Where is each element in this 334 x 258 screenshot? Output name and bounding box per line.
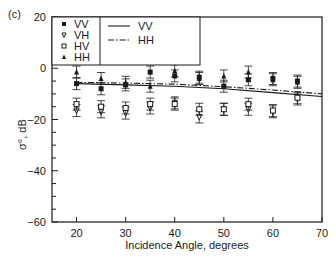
x-tick-label: 70 [316,227,328,239]
x-axis-label: Incidence Angle, degrees [0,239,334,251]
point-hv [99,104,104,109]
legend-label: HH [74,51,90,63]
point-hv [123,105,128,110]
point-hv [148,102,153,107]
point-hh [123,79,128,85]
point-vv [221,84,226,89]
x-tick-label: 50 [218,227,230,239]
y-tick-label: 0 [40,62,46,74]
point-hh [172,68,177,74]
point-hv [295,95,300,100]
point-hv [172,102,177,107]
x-tick-label: 30 [120,227,132,239]
point-hv [270,108,275,113]
point-hh [99,76,104,82]
x-tick-label: 40 [169,227,181,239]
chart-plot: 200−20−40−60203040506070VVVHHVHHVVHH [0,0,334,258]
point-hv [221,107,226,112]
point-vv [74,81,79,86]
legend-label: VV [138,20,153,32]
y-tick-label: −40 [27,165,46,177]
point-hh [221,73,226,79]
y-tick-label: −60 [27,216,46,228]
x-tick-label: 20 [70,227,82,239]
y-tick-label: 20 [34,11,46,23]
point-vv [99,86,104,91]
y-axis-label: σ°, dB [16,119,28,150]
point-hv [197,107,202,112]
legend-marker-hv [62,44,66,48]
point-vv [148,70,153,75]
point-hv [74,102,79,107]
x-tick-label: 60 [267,227,279,239]
legend-label: HH [138,34,154,46]
point-hv [246,102,251,107]
y-tick-label: −20 [27,114,46,126]
point-hh [74,69,79,75]
line-vv-solid [77,84,322,97]
point-hh [246,69,251,75]
legend-marker-vv [62,22,66,26]
